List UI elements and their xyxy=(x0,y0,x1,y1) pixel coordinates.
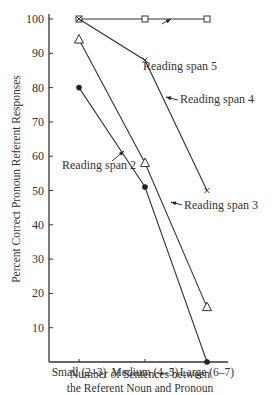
triangle-marker xyxy=(203,302,212,311)
y-tick-label: 100 xyxy=(26,12,44,26)
y-tick-label: 50 xyxy=(32,184,44,198)
series-reading-span-2 xyxy=(76,85,210,365)
series-annotations: Reading span 5Reading span 4Reading span… xyxy=(62,19,258,212)
square-marker xyxy=(142,16,148,22)
circle-marker xyxy=(142,184,148,190)
y-axis-label: Percent Correct Pronoun Referent Respons… xyxy=(10,44,24,314)
y-tick-label: 60 xyxy=(32,149,44,163)
y-tick-label: 30 xyxy=(32,252,44,266)
square-marker xyxy=(204,16,210,22)
y-tick-label: 20 xyxy=(32,286,44,300)
triangle-marker xyxy=(75,35,84,44)
x-axis-label-line-2: the Referent Noun and Pronoun xyxy=(40,381,240,395)
y-tick-label: 70 xyxy=(32,115,44,129)
annotation-label: Reading span 4 xyxy=(180,92,254,106)
circle-marker xyxy=(204,359,210,365)
arrow-icon xyxy=(171,201,176,205)
annotation-label: Reading span 3 xyxy=(184,198,258,212)
x-axis-label-line-1: Number of Sentences between xyxy=(40,367,240,381)
x-axis-label: Number of Sentences between the Referent… xyxy=(40,367,240,395)
series-reading-span-5 xyxy=(76,16,210,22)
series-reading-span-3 xyxy=(75,35,212,311)
annotation-label: Reading span 2 xyxy=(62,158,136,172)
annotation-label: Reading span 5 xyxy=(143,59,217,73)
y-tick-label: 90 xyxy=(32,46,44,60)
triangle-marker xyxy=(141,158,150,167)
y-tick-label: 10 xyxy=(32,321,44,335)
arrow-icon xyxy=(166,19,171,23)
circle-marker xyxy=(76,85,82,91)
y-tick-label: 40 xyxy=(32,218,44,232)
y-tick-label: 80 xyxy=(32,81,44,95)
